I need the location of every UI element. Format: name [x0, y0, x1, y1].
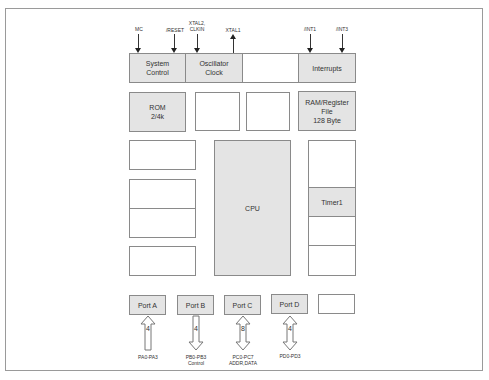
- bus-width-port-c: 8: [235, 326, 251, 332]
- block-label: Control: [146, 68, 169, 77]
- bus-arrow-bidirectional-icon: [282, 315, 298, 351]
- block-mid-empty-2: [246, 92, 290, 131]
- block-right-empty-top: [308, 140, 356, 188]
- signal-line-xtal2: [197, 34, 198, 49]
- block-label: System: [146, 59, 169, 68]
- block-label: ROM: [149, 103, 165, 112]
- arrow-up-icon: [230, 34, 236, 39]
- block-label: RAM/Register: [305, 98, 349, 107]
- bus-arrow-down-icon: [188, 315, 204, 351]
- block-right-empty-bot: [308, 245, 356, 276]
- bus-width-port-d: 4: [282, 326, 298, 332]
- pin-label-line1: PA0-PA3: [132, 354, 164, 360]
- block-right-empty-mid: [308, 216, 356, 246]
- signal-label-xtal2-line2: CLKIN: [186, 26, 208, 32]
- block-label: 2/4k: [149, 112, 165, 121]
- block-ram-register-file: RAM/RegisterFile128 Byte: [298, 91, 356, 131]
- pin-label-line2: ADDR,DATA: [225, 360, 261, 366]
- block-oscillator-clock: OscillatorClock: [185, 53, 243, 83]
- block-label: CPU: [245, 204, 260, 213]
- signal-line-xtal1: [233, 38, 234, 53]
- bus-arrow-up-icon: [140, 315, 156, 351]
- signal-line-mc: [138, 34, 139, 49]
- signal-label-xtal2: XTAL2, CLKIN: [186, 20, 208, 32]
- block-left-empty-2b: [129, 208, 196, 238]
- block-port-b: Port B: [177, 295, 214, 315]
- bus-arrow-bidirectional-icon: [235, 315, 251, 351]
- block-label: Interrupts: [312, 64, 342, 73]
- pin-label-port-a: PA0-PA3: [132, 354, 164, 360]
- block-mid-empty-1: [195, 92, 240, 131]
- block-left-empty-1: [129, 140, 196, 170]
- block-label: File: [305, 107, 349, 116]
- block-label: Timer1: [321, 198, 343, 207]
- block-top-empty: [242, 53, 299, 83]
- block-port-c: Port C: [224, 295, 261, 315]
- block-label: 128 Byte: [305, 116, 349, 125]
- signal-line-reset: [174, 34, 175, 49]
- block-timer1: Timer1: [308, 187, 356, 217]
- pin-label-port-c: PC0-PC7 ADDR,DATA: [225, 354, 261, 366]
- block-left-empty-3: [129, 246, 196, 276]
- block-label: Clock: [199, 68, 228, 77]
- signal-label-int3: /INT3: [334, 26, 350, 32]
- block-system-control: SystemControl: [129, 53, 186, 83]
- block-label: Oscillator: [199, 59, 228, 68]
- port-label: Port A: [138, 301, 157, 310]
- block-rom: ROM2/4k: [129, 92, 186, 132]
- signal-line-int1: [310, 34, 311, 49]
- bus-width-port-b: 4: [188, 326, 204, 332]
- port-label: Port B: [186, 301, 205, 310]
- block-interrupts: Interrupts: [298, 53, 356, 83]
- pin-label-line2: Control: [180, 360, 212, 366]
- block-port-a: Port A: [129, 295, 166, 315]
- signal-label-xtal1: XTAL1: [223, 27, 243, 33]
- port-label: Port D: [280, 300, 300, 309]
- block-cpu: CPU: [214, 140, 291, 276]
- port-label: Port C: [233, 301, 253, 310]
- pin-label-line1: PD0-PD3: [274, 353, 306, 359]
- signal-label-int1: /INT1: [302, 26, 318, 32]
- signal-label-mc: MC: [132, 26, 146, 32]
- bus-width-port-a: 4: [140, 326, 156, 332]
- block-port-d: Port D: [271, 294, 308, 314]
- pin-label-port-b: PB0-PB3 Control: [180, 354, 212, 366]
- block-port-empty: [318, 294, 355, 314]
- signal-line-int3: [342, 34, 343, 49]
- pin-label-port-d: PD0-PD3: [274, 353, 306, 359]
- signal-label-reset: /RESET: [164, 27, 186, 33]
- block-left-empty-2a: [129, 179, 196, 209]
